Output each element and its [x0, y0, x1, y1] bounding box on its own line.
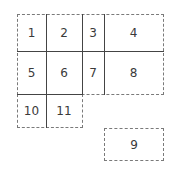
cell-label: 3 [89, 26, 97, 40]
cell-label: 6 [60, 66, 68, 80]
cell-7: 7 [82, 51, 104, 94]
cell-10: 10 [17, 94, 46, 127]
cell-label: 2 [60, 26, 68, 40]
cell-label: 10 [24, 104, 39, 118]
cell-label: 1 [28, 26, 36, 40]
cell-1: 1 [17, 14, 46, 51]
cell-5: 5 [17, 51, 46, 94]
cell-11: 11 [46, 94, 82, 127]
cell-4: 4 [104, 14, 163, 51]
cell-2: 2 [46, 14, 82, 51]
cell-9: 9 [104, 128, 164, 161]
cell-label: 5 [28, 66, 36, 80]
cell-3: 3 [82, 14, 104, 51]
cell-label: 4 [130, 26, 138, 40]
cell-label: 8 [130, 66, 138, 80]
cell-8: 8 [104, 51, 163, 94]
cell-6: 6 [46, 51, 82, 94]
cell-label: 9 [130, 138, 138, 152]
cell-label: 11 [56, 104, 71, 118]
cell-label: 7 [89, 66, 97, 80]
